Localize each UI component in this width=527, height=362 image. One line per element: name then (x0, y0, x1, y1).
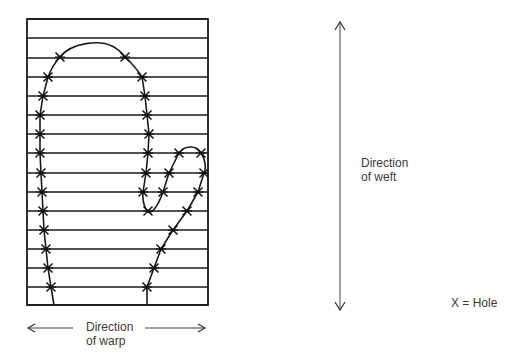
hole-x-icon (43, 73, 53, 82)
hole-x-icon (158, 188, 168, 197)
hole-x-icon (55, 53, 65, 62)
warp-label-line2: of warp (86, 334, 133, 348)
warp-label-line1: Direction (86, 320, 133, 334)
mitten-diagram (0, 0, 527, 362)
mitten-outline (40, 43, 205, 305)
hole-x-icon (196, 149, 206, 158)
weft-direction-arrow (335, 22, 345, 310)
weft-label-line2: of weft (361, 170, 408, 184)
hole-x-icon (120, 53, 130, 62)
hole-x-icon (199, 169, 209, 178)
hole-x-icon (156, 245, 166, 254)
weft-grid (27, 19, 208, 305)
hole-x-icon (143, 207, 153, 216)
hole-x-icon (174, 149, 184, 158)
hole-x-icon (193, 188, 203, 197)
hole-x-icon (168, 226, 178, 235)
weft-label-line1: Direction (361, 156, 408, 170)
weft-direction-label: Direction of weft (361, 156, 408, 184)
hole-markers (35, 53, 209, 292)
hole-x-icon (164, 169, 174, 178)
hole-x-icon (149, 264, 159, 273)
hole-x-icon (182, 207, 192, 216)
warp-direction-label: Direction of warp (86, 320, 133, 348)
grid-border (27, 19, 208, 305)
hole-legend: X = Hole (451, 296, 497, 310)
